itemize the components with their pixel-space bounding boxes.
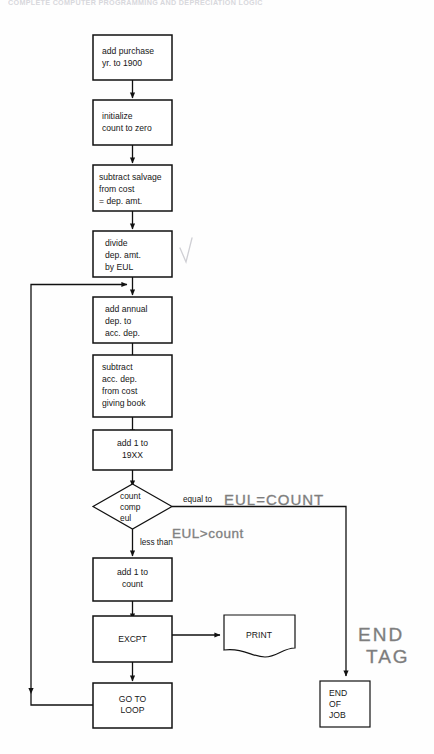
node-end-of-job[interactable]: END OF JOB <box>320 681 370 727</box>
node-decision-count-comp-eul[interactable]: count comp eul <box>93 484 172 529</box>
node-add-1-to-19xx[interactable]: add 1 to 19XX <box>93 430 172 470</box>
node-line-1: END <box>329 688 347 698</box>
loopback-arrowhead-down <box>28 688 33 694</box>
node-line-2: from cost <box>99 184 135 194</box>
node-line-2: count <box>122 579 144 589</box>
node-add-annual-dep[interactable]: add annual dep. to acc. dep. <box>93 297 172 343</box>
node-line-1: count <box>120 491 141 501</box>
node-line-1: GO TO <box>119 694 147 704</box>
node-line-3: acc. dep. <box>105 328 140 338</box>
node-line-4: giving book <box>102 398 146 408</box>
node-line-2: OF <box>329 699 341 709</box>
node-line-2: acc. dep. <box>102 374 137 384</box>
annotation-eul-equals-count: EUL=COUNT <box>224 491 324 508</box>
node-print-document[interactable]: PRINT <box>224 615 295 657</box>
node-divide-by-eul[interactable]: divide dep. amt. by EUL <box>93 231 172 277</box>
node-add-purchase-year[interactable]: add purchase yr. to 1900 <box>93 35 172 80</box>
flowchart-canvas: add purchase yr. to 1900 initialize coun… <box>0 0 434 754</box>
node-line-2: comp <box>120 502 141 512</box>
node-line-2: 19XX <box>122 450 143 460</box>
node-line-1: PRINT <box>246 630 273 640</box>
node-initialize-count[interactable]: initialize count to zero <box>93 100 172 145</box>
node-line-1: add purchase <box>102 46 154 56</box>
node-go-to-loop[interactable]: GO TO LOOP <box>93 683 172 728</box>
edge-label-less-than: less than <box>140 538 173 547</box>
node-line-3: = dep. amt. <box>99 196 142 206</box>
flowchart-page: COMPLETE COMPUTER PROGRAMMING AND DEPREC… <box>0 0 434 754</box>
node-subtract-acc-dep[interactable]: subtract acc. dep. from cost giving book <box>93 355 172 417</box>
node-line-1: initialize <box>102 111 133 121</box>
node-line-2: dep. to <box>105 316 132 326</box>
annotation-tag-word: TAG <box>366 646 410 667</box>
node-line-1: subtract <box>102 362 133 372</box>
node-line-2: yr. to 1900 <box>102 58 142 68</box>
node-line-1: add annual <box>105 304 148 314</box>
node-line-3: by EUL <box>105 262 133 272</box>
node-line-1: EXCPT <box>118 634 147 644</box>
node-line-3: eul <box>120 513 131 523</box>
node-line-1: subtract salvage <box>99 172 162 182</box>
node-line-1: divide <box>105 238 128 248</box>
node-line-3: JOB <box>329 710 346 720</box>
connector-group <box>28 80 346 708</box>
annotation-end-word: END <box>358 624 404 645</box>
node-line-2: dep. amt. <box>105 250 141 260</box>
node-add-1-to-count[interactable]: add 1 to count <box>93 558 172 601</box>
node-excpt[interactable]: EXCPT <box>93 616 172 662</box>
node-line-2: LOOP <box>121 705 145 715</box>
node-line-1: add 1 to <box>117 567 148 577</box>
node-line-3: from cost <box>102 386 138 396</box>
edge-label-equal-to: equal to <box>183 495 213 504</box>
node-subtract-salvage[interactable]: subtract salvage from cost = dep. amt. <box>93 165 172 211</box>
node-line-1: add 1 to <box>117 438 148 448</box>
annotation-checkmark-icon <box>180 238 192 262</box>
annotation-eul-greater-count: EUL>count <box>172 526 244 541</box>
node-line-2: count to zero <box>102 123 152 133</box>
